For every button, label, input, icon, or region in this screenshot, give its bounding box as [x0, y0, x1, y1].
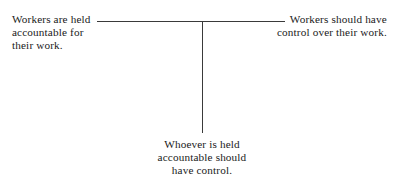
- horizontal-connector-line: [97, 21, 285, 22]
- node-label-bottom-line-2: accountable should: [132, 151, 272, 164]
- node-label-bottom-line-3: have control.: [132, 164, 272, 177]
- node-label-right-line-2: control over their work.: [277, 26, 387, 39]
- node-label-left: Workers are held accountable for their w…: [12, 13, 91, 52]
- node-label-left-line-3: their work.: [12, 39, 91, 52]
- node-label-right-line-1: Workers should have: [277, 13, 387, 26]
- node-label-bottom-line-1: Whoever is held: [132, 138, 272, 151]
- diagram-canvas: Workers are held accountable for their w…: [0, 0, 407, 182]
- node-label-left-line-2: accountable for: [12, 26, 91, 39]
- vertical-connector-line: [202, 21, 203, 133]
- node-label-left-line-1: Workers are held: [12, 13, 91, 26]
- node-label-right: Workers should have control over their w…: [277, 13, 387, 39]
- node-label-bottom: Whoever is held accountable should have …: [132, 138, 272, 177]
